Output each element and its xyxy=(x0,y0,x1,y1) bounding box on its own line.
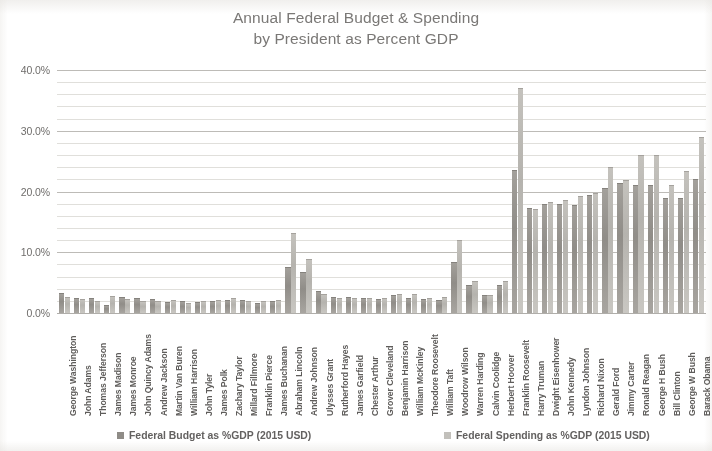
bar-spending[interactable] xyxy=(518,88,523,313)
bar-budget[interactable] xyxy=(466,285,471,313)
x-axis-tick-label: George H Bush xyxy=(657,354,667,416)
bar-budget[interactable] xyxy=(617,183,622,313)
x-axis-tick-label: James Garfield xyxy=(355,355,365,416)
legend-item-spending[interactable]: Federal Spending as %GDP (2015 USD) xyxy=(444,430,650,441)
bar-spending[interactable] xyxy=(171,300,176,313)
bar-spending[interactable] xyxy=(231,298,236,313)
bar-group xyxy=(661,70,676,313)
bar-budget[interactable] xyxy=(497,285,502,313)
bar-budget[interactable] xyxy=(119,297,124,313)
bar-spending[interactable] xyxy=(623,180,628,313)
bar-budget[interactable] xyxy=(300,272,305,313)
bar-budget[interactable] xyxy=(633,185,638,313)
bar-budget[interactable] xyxy=(150,299,155,313)
bar-spending[interactable] xyxy=(186,303,191,313)
bar-budget[interactable] xyxy=(421,299,426,313)
legend-item-budget[interactable]: Federal Budget as %GDP (2015 USD) xyxy=(117,430,311,441)
bar-spending[interactable] xyxy=(155,301,160,313)
bar-group xyxy=(389,70,404,313)
bar-budget[interactable] xyxy=(512,170,517,313)
bar-budget[interactable] xyxy=(451,262,456,313)
bar-spending[interactable] xyxy=(382,298,387,313)
bar-spending[interactable] xyxy=(140,301,145,313)
bar-budget[interactable] xyxy=(693,179,698,313)
x-axis-tick-label: Thomas Jefferson xyxy=(98,343,108,416)
bar-budget[interactable] xyxy=(331,297,336,313)
bar-spending[interactable] xyxy=(654,155,659,313)
x-axis-tick-label: Chester Arthur xyxy=(370,356,380,416)
bar-spending[interactable] xyxy=(578,196,583,313)
bar-budget[interactable] xyxy=(527,208,532,313)
x-axis-tick-label: Richard Nixon xyxy=(596,358,606,416)
bar-spending[interactable] xyxy=(321,294,326,313)
bar-budget[interactable] xyxy=(59,293,64,313)
chart-container: Annual Federal Budget & Spending by Pres… xyxy=(0,0,712,451)
bar-budget[interactable] xyxy=(587,195,592,313)
bar-budget[interactable] xyxy=(482,295,487,313)
bar-spending[interactable] xyxy=(201,301,206,313)
bar-spending[interactable] xyxy=(412,294,417,313)
bar-spending[interactable] xyxy=(533,209,538,313)
bar-spending[interactable] xyxy=(367,298,372,313)
bar-spending[interactable] xyxy=(472,281,477,313)
bar-budget[interactable] xyxy=(180,301,185,313)
bar-spending[interactable] xyxy=(337,298,342,313)
bar-budget[interactable] xyxy=(240,300,245,313)
bar-spending[interactable] xyxy=(699,137,704,313)
bar-spending[interactable] xyxy=(216,300,221,313)
bar-budget[interactable] xyxy=(89,298,94,313)
bar-budget[interactable] xyxy=(572,205,577,313)
bar-spending[interactable] xyxy=(80,299,85,313)
bar-budget[interactable] xyxy=(104,305,109,314)
bar-spending[interactable] xyxy=(306,259,311,313)
bar-budget[interactable] xyxy=(663,198,668,313)
bar-budget[interactable] xyxy=(436,300,441,313)
bar-spending[interactable] xyxy=(487,295,492,313)
bar-budget[interactable] xyxy=(391,295,396,313)
bar-budget[interactable] xyxy=(316,291,321,313)
bar-spending[interactable] xyxy=(593,193,598,313)
bar-budget[interactable] xyxy=(361,298,366,313)
bar-spending[interactable] xyxy=(110,296,115,313)
bar-budget[interactable] xyxy=(255,303,260,313)
bar-budget[interactable] xyxy=(542,204,547,313)
bar-spending[interactable] xyxy=(246,301,251,313)
bar-spending[interactable] xyxy=(397,294,402,313)
bar-budget[interactable] xyxy=(195,302,200,313)
y-axis-tick-label: 20.0% xyxy=(21,186,50,198)
bar-budget[interactable] xyxy=(285,267,290,313)
bar-spending[interactable] xyxy=(427,298,432,313)
bar-spending[interactable] xyxy=(608,167,613,313)
bar-spending[interactable] xyxy=(65,297,70,313)
bar-budget[interactable] xyxy=(210,301,215,313)
bar-budget[interactable] xyxy=(270,301,275,313)
bar-budget[interactable] xyxy=(225,300,230,313)
bar-budget[interactable] xyxy=(557,204,562,313)
x-axis-tick-label: Herbert Hoover xyxy=(506,354,516,416)
bar-spending[interactable] xyxy=(684,171,689,313)
bar-budget[interactable] xyxy=(134,298,139,313)
bar-budget[interactable] xyxy=(376,299,381,313)
bar-spending[interactable] xyxy=(503,281,508,313)
bar-budget[interactable] xyxy=(346,297,351,313)
bar-spending[interactable] xyxy=(125,299,130,313)
bar-spending[interactable] xyxy=(457,240,462,314)
bar-budget[interactable] xyxy=(74,298,79,313)
bar-spending[interactable] xyxy=(261,301,266,313)
bar-budget[interactable] xyxy=(406,298,411,313)
bar-spending[interactable] xyxy=(638,155,643,313)
bar-group xyxy=(359,70,374,313)
bar-budget[interactable] xyxy=(165,302,170,313)
bar-spending[interactable] xyxy=(95,301,100,313)
bar-spending[interactable] xyxy=(548,202,553,313)
bar-spending[interactable] xyxy=(442,297,447,313)
bar-budget[interactable] xyxy=(678,198,683,313)
bar-budget[interactable] xyxy=(648,185,653,313)
bar-group xyxy=(540,70,555,313)
bar-spending[interactable] xyxy=(276,300,281,313)
bar-spending[interactable] xyxy=(563,200,568,313)
bar-spending[interactable] xyxy=(352,298,357,313)
bar-budget[interactable] xyxy=(602,188,607,313)
bar-spending[interactable] xyxy=(291,233,296,313)
bar-spending[interactable] xyxy=(669,185,674,313)
